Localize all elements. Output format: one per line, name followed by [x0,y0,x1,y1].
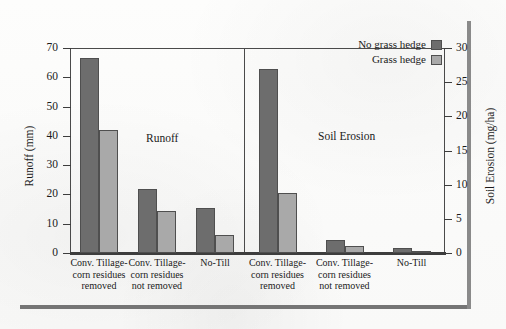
bar [215,235,234,253]
right-tick-label: 15 [456,145,468,157]
bar [278,193,297,253]
x-category-label-line: removed [244,280,312,292]
right-tick-label: 5 [456,213,462,225]
bar [157,211,176,253]
legend-entry: Grass hedge [330,53,442,66]
bar [393,248,412,253]
legend-swatch [431,55,442,65]
bar [196,208,215,253]
x-category-label: Conv. Tillage-corn residuesnot removed [311,257,379,292]
left-tick-label: 10 [47,218,59,230]
x-category-label: No-Till [181,257,249,269]
bar [326,240,345,253]
right-tick-mark [444,82,452,83]
legend-label: Grass hedge [372,53,426,66]
right-tick-mark [444,185,452,186]
x-category-label-line: No-Till [181,257,249,269]
right-tick-mark [444,116,452,117]
right-tick-mark [444,253,452,254]
left-tick-label: 40 [47,130,59,142]
bar [259,69,278,253]
legend-swatch [431,40,442,50]
legend-label: No grass hedge [358,38,426,51]
left-tick-mark [63,253,71,254]
bar [138,189,157,253]
x-category-label: Conv. Tillage-corn residuesremoved [244,257,312,292]
x-category-label-line: not removed [123,280,191,292]
x-axis-category-labels: Conv. Tillage-corn residuesremovedConv. … [70,257,445,303]
left-tick-label: 20 [47,188,59,200]
right-axis-title: Soil Erosion (mg/ha) [484,86,496,226]
x-category-label-line: corn residues [244,269,312,281]
x-category-label-line: Conv. Tillage- [244,257,312,269]
left-tick-label: 0 [52,247,58,259]
left-tick-label: 30 [47,159,59,171]
x-category-label: No-Till [378,257,446,269]
left-tick-label: 70 [47,42,59,54]
x-category-label-line: corn residues [123,269,191,281]
x-category-label-line: corn residues [311,269,379,281]
bar [80,58,99,253]
bar [412,251,431,253]
x-category-label-line: Conv. Tillage- [311,257,379,269]
left-tick-label: 50 [47,101,59,113]
right-tick-label: 0 [456,247,462,259]
left-tick-label: 60 [47,71,59,83]
right-tick-label: 10 [456,179,468,191]
right-tick-label: 30 [456,42,468,54]
right-tick-label: 25 [456,76,468,88]
right-tick-mark [444,48,452,49]
right-tick-label: 20 [456,110,468,122]
x-category-label-line: No-Till [378,257,446,269]
right-tick-mark [444,151,452,152]
bar-series-container [70,48,445,253]
bar [99,130,118,253]
x-category-label-line: not removed [311,280,379,292]
legend-entry: No grass hedge [330,38,442,51]
left-axis-title: Runoff (mm) [23,101,35,211]
right-tick-mark [444,219,452,220]
legend: No grass hedgeGrass hedge [330,38,442,68]
bar [345,246,364,253]
bar-chart-figure: 010203040506070 051015202530 Runoff (mm)… [0,0,506,329]
